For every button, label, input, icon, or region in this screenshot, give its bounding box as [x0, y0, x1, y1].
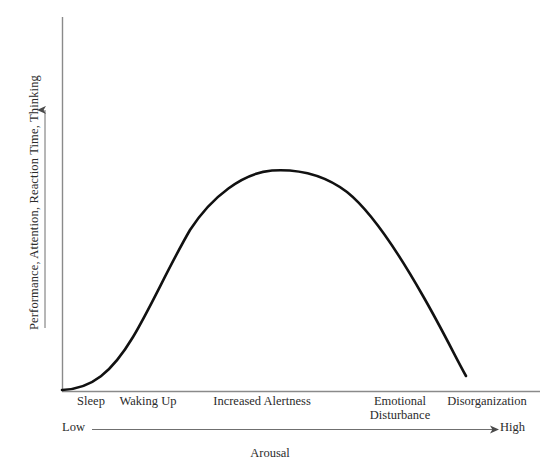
x-axis-high-label: High: [500, 420, 525, 435]
performance-curve: [62, 170, 466, 390]
x-axis-title: Arousal: [0, 446, 540, 461]
x-tick-label-increased-alertness: Increased Alertness: [192, 394, 332, 409]
y-axis-low-label: Slow, Low-Quality: [0, 212, 1, 332]
x-tick-label-emotional-disturbance-line2: Disturbance: [350, 408, 450, 423]
y-axis-caption: Performance, Attention, Reaction Time, T…: [27, 53, 42, 353]
x-axis-low-label: Low: [62, 420, 85, 435]
x-tick-label-disorganization: Disorganization: [434, 394, 540, 409]
x-tick-label-waking-up: Waking Up: [98, 394, 198, 409]
y-axis-high-label: Fast, High-Quality: [0, 0, 1, 104]
yerkes-dodson-chart: Performance, Attention, Reaction Time, T…: [0, 0, 540, 474]
